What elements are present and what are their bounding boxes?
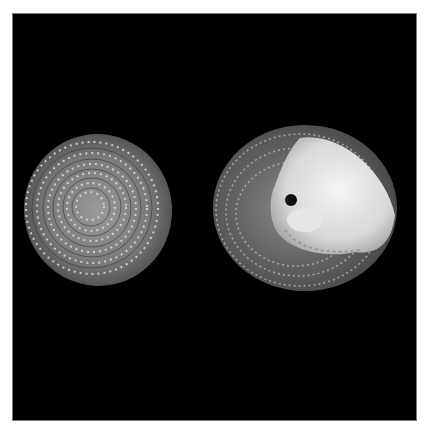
right-shell [213, 125, 397, 291]
left-shell [12, 122, 184, 297]
shells-illustration [0, 0, 433, 436]
